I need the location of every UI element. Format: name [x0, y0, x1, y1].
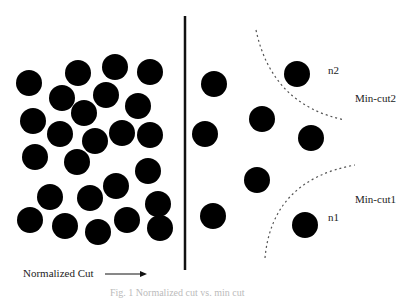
- graph-node: [284, 61, 310, 87]
- graph-node: [201, 71, 227, 97]
- graph-node: [52, 213, 78, 239]
- graph-node: [85, 219, 111, 245]
- graph-node: [114, 207, 140, 233]
- figure-caption: Fig. 1 Normalized cut vs. min cut: [110, 287, 244, 298]
- graph-node: [103, 173, 129, 199]
- label-normalized-cut: Normalized Cut: [23, 267, 94, 279]
- graph-node: [65, 60, 91, 86]
- graph-node: [109, 120, 135, 146]
- graph-node: [20, 108, 46, 134]
- graph-node: [200, 203, 226, 229]
- graph-node: [145, 191, 171, 217]
- graph-node: [22, 144, 48, 170]
- graph-node: [137, 59, 163, 85]
- label-n1: n1: [328, 211, 339, 223]
- left-node-cluster: [16, 54, 173, 245]
- graph-node: [17, 207, 43, 233]
- graph-node: [49, 85, 75, 111]
- label-n2: n2: [328, 64, 339, 76]
- graph-node: [147, 215, 173, 241]
- graph-node: [64, 149, 90, 175]
- graph-node: [249, 106, 275, 132]
- right-node-cluster: [192, 61, 324, 238]
- graph-node: [298, 125, 324, 151]
- arrow-head-icon: [140, 271, 147, 277]
- graph-node: [77, 185, 103, 211]
- graph-node: [137, 122, 163, 148]
- graph-node: [125, 93, 151, 119]
- label-min-cut1: Min-cut1: [355, 193, 396, 205]
- label-min-cut2: Min-cut2: [355, 92, 396, 104]
- graph-node: [244, 167, 270, 193]
- graph-node: [102, 54, 128, 80]
- graph-node: [82, 128, 108, 154]
- graph-node: [16, 70, 42, 96]
- min-cut1-dashed-curve: [265, 165, 355, 258]
- graph-node: [37, 184, 63, 210]
- graph-node: [192, 121, 218, 147]
- graph-node: [292, 212, 318, 238]
- graph-node: [93, 82, 119, 108]
- graph-node: [135, 158, 161, 184]
- graph-node: [47, 121, 73, 147]
- graph-node: [71, 100, 97, 126]
